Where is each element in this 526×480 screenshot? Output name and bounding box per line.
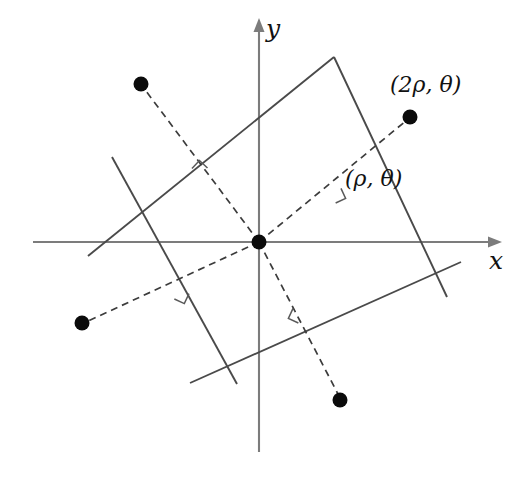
point-label-2rho-theta: (2ρ, θ)	[390, 74, 461, 96]
line-upper-left-far	[88, 57, 334, 256]
ray-to-upper-left	[143, 87, 259, 242]
x-axis-label: x	[489, 248, 503, 273]
y-axis-label: y	[266, 16, 280, 41]
point-origin	[252, 235, 267, 250]
polar-diagram: y x (2ρ, θ) (ρ, θ)	[0, 0, 526, 480]
ray-to-lower-left	[86, 242, 259, 322]
point-label-rho-theta: (ρ, θ)	[345, 168, 402, 190]
point-lower-left	[75, 316, 90, 331]
ray-to-lower-right	[259, 242, 338, 394]
point-lower-right	[333, 393, 348, 408]
line-upper-left-near	[112, 157, 237, 384]
right-angle-upper-right	[331, 188, 346, 203]
point-upper-right	[403, 110, 418, 125]
point-upper-left	[134, 77, 149, 92]
dashed-rays-group	[86, 87, 407, 394]
y-axis-arrowhead	[254, 18, 265, 32]
line-lower-band	[190, 262, 461, 383]
solid-lines-group	[88, 57, 461, 384]
